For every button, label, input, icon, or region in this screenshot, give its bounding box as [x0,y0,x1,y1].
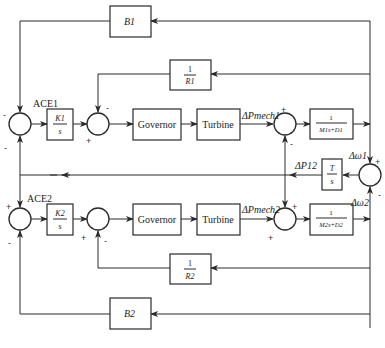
ace2-label: ACE2 [27,193,52,204]
sum-ace1 [9,113,31,135]
pmech2-label: ΔPmech2 [241,204,280,215]
sign: + [86,136,91,146]
svg-text:1: 1 [188,65,192,74]
r2-output-line [98,231,170,268]
svg-text:R1: R1 [185,77,195,86]
svg-text:s: s [58,222,61,231]
svg-text:T: T [330,164,335,173]
droop-r1-block: 1 R1 [170,60,211,90]
b2-block: B2 [110,298,151,329]
block-diagram: B1 1 R1 K1 s Governor Turbine 1 M1s+D1 T… [0,0,385,348]
svg-text:B2: B2 [124,308,135,319]
svg-text:Governor: Governor [138,214,177,225]
sum-frequency-diff [359,164,381,186]
svg-text:1: 1 [329,209,333,217]
sign: - [4,143,7,153]
sign: + [268,233,273,243]
svg-text:s: s [58,127,61,136]
sum-ace2 [9,208,31,230]
sum-control2 [87,208,109,230]
pmech1-label: ΔPmech1 [241,110,280,121]
b2-output-line [20,231,110,314]
sign: + [292,202,297,212]
sign: - [290,139,293,149]
governor2-block: Governor [133,204,181,235]
dp12-label: ΔP12 [294,160,317,171]
plant1-block: 1 M1s+D1 [310,109,353,139]
delta-omega1-label: Δω1 [348,150,367,161]
turbine1-block: Turbine [197,109,240,140]
b1-block: B1 [110,6,151,37]
svg-text:M1s+D1: M1s+D1 [318,126,343,133]
sign: + [281,105,286,115]
integrator-k1-block: K1 s [47,109,73,140]
svg-text:Turbine: Turbine [202,119,234,130]
svg-text:Governor: Governor [138,119,177,130]
sign: + [375,157,380,167]
ace1-label: ACE1 [33,98,58,109]
svg-text:Turbine: Turbine [202,214,234,225]
svg-text:K2: K2 [54,209,64,218]
svg-text:K1: K1 [54,114,64,123]
sign: + [6,202,11,212]
integrator-k2-block: K2 s [47,204,73,235]
sign: - [378,190,381,200]
sign: + [81,233,86,243]
svg-text:B1: B1 [124,16,135,27]
droop-r2-block: 1 R2 [170,254,211,284]
svg-text:s: s [330,177,333,186]
plant2-block: 1 M2s+D2 [310,204,353,235]
svg-text:1: 1 [188,259,192,268]
tie-line-block: T s [322,159,342,190]
sign: - [106,103,109,113]
sign: - [8,238,11,248]
sum-control1 [87,113,109,135]
delta-omega2-label: Δω2 [350,197,369,208]
svg-text:R2: R2 [185,272,195,281]
svg-text:1: 1 [329,114,333,122]
turbine2-block: Turbine [197,204,240,235]
sign: - [104,236,107,246]
sign: - [3,110,6,120]
governor1-block: Governor [133,109,181,140]
svg-text:M2s+D2: M2s+D2 [318,221,343,228]
